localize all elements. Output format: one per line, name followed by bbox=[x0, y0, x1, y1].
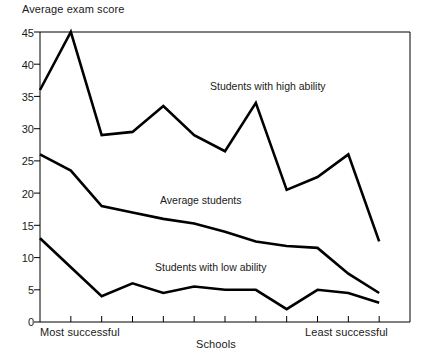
series-line-students-with-low-ability bbox=[40, 238, 379, 309]
series-annotation-average-students: Average students bbox=[160, 194, 242, 206]
series-annotation-low-ability: Students with low ability bbox=[155, 261, 266, 273]
x-axis-ticks bbox=[71, 316, 379, 322]
series-line-students-with-high-ability bbox=[40, 32, 379, 241]
y-axis-ticks bbox=[34, 32, 40, 322]
x-axis-title: Schools bbox=[196, 338, 236, 350]
line-chart: Average exam score 45 40 35 30 25 20 15 … bbox=[0, 0, 428, 363]
x-axis-right-label: Least successful bbox=[305, 326, 388, 338]
x-axis-left-label: Most successful bbox=[40, 326, 120, 338]
series-annotation-high-ability: Students with high ability bbox=[210, 80, 326, 92]
chart-canvas bbox=[0, 0, 428, 363]
